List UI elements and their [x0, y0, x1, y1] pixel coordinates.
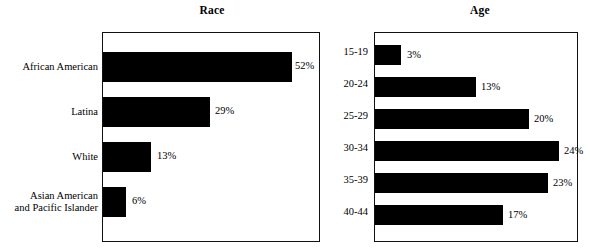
race-plot-area: 52% 29% 13% 6% [102, 32, 320, 242]
race-panel: Race African American Latina White Asian… [0, 0, 330, 250]
age-plot-area: 3% 13% 20% 24% 23% 17% [374, 32, 578, 242]
race-bar-value-white: 13% [157, 151, 176, 162]
race-bar-african-american [103, 52, 292, 82]
age-bar-value-30-34: 24% [564, 146, 583, 157]
age-category-label-40-44: 40-44 [330, 206, 368, 218]
race-bar-value-african-american: 52% [295, 61, 314, 72]
age-category-label-15-19: 15-19 [330, 46, 368, 58]
two-panel-bar-chart-figure: Race African American Latina White Asian… [0, 0, 590, 250]
age-bar-value-40-44: 17% [508, 210, 527, 221]
race-category-label-african-american: African American [0, 61, 98, 73]
age-bar-20-24 [375, 77, 476, 97]
age-bar-35-39 [375, 173, 548, 193]
race-category-label-white: White [0, 151, 98, 163]
age-category-label-20-24: 20-24 [330, 78, 368, 90]
age-bar-30-34 [375, 141, 559, 161]
age-bar-15-19 [375, 45, 401, 65]
race-category-label-line-1: Asian American [0, 190, 98, 202]
age-category-label-35-39: 35-39 [330, 174, 368, 186]
race-bar-latina [103, 97, 210, 127]
race-bar-value-asian-american-pacific-islander: 6% [132, 196, 146, 207]
age-bar-value-15-19: 3% [407, 50, 421, 61]
age-panel: Age 15-19 20-24 25-29 30-34 35-39 40-44 … [330, 0, 590, 250]
race-bar-asian-american-pacific-islander [103, 187, 126, 217]
race-category-label-latina: Latina [0, 106, 98, 118]
age-category-label-30-34: 30-34 [330, 142, 368, 154]
race-bar-value-latina: 29% [215, 106, 234, 117]
age-bar-25-29 [375, 109, 529, 129]
age-bar-value-20-24: 13% [481, 82, 500, 93]
race-category-label-line-2: and Pacific Islander [0, 202, 98, 214]
age-bar-value-25-29: 20% [534, 114, 553, 125]
age-chart-title: Age [330, 4, 590, 16]
race-bar-white [103, 142, 151, 172]
race-category-label-asian-american-pacific-islander: Asian American and Pacific Islander [0, 190, 98, 214]
age-bar-value-35-39: 23% [553, 178, 572, 189]
age-category-label-25-29: 25-29 [330, 110, 368, 122]
age-bar-40-44 [375, 205, 503, 225]
